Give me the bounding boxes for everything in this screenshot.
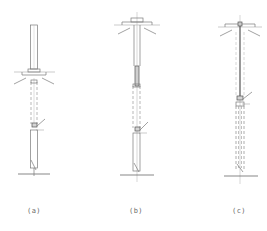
- panel-c-drawing: [218, 15, 262, 184]
- panel-b-drawing: [114, 12, 160, 182]
- panel-b-label: (b): [129, 207, 143, 215]
- panel-a-drawing: [14, 25, 55, 176]
- panel-c-label: (c): [232, 207, 246, 215]
- diagram-canvas: [0, 0, 267, 231]
- process-diagram: (a) (b) (c): [0, 0, 267, 231]
- panel-a-label: (a): [27, 207, 41, 215]
